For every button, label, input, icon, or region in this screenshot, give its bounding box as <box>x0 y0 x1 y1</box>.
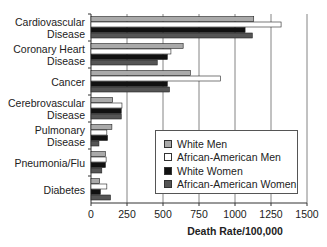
bar-african-american-men <box>91 76 221 81</box>
bar-african-american-men <box>91 103 122 108</box>
bar-white-women <box>91 163 105 168</box>
category-label: CardiovascularDisease <box>15 16 85 40</box>
bar-white-women <box>91 28 245 33</box>
x-tick-label: 1000 <box>223 208 246 220</box>
bar-white-women <box>91 82 167 87</box>
bar-white-men <box>91 17 254 22</box>
bar-african-american-men <box>91 22 281 27</box>
bar-african-american-men <box>91 157 106 162</box>
bar-african-american-women <box>91 87 169 92</box>
legend-label: African-American Men <box>177 151 281 163</box>
x-tick-label: 1500 <box>295 208 318 220</box>
legend-label: White Women <box>177 165 243 177</box>
category-label: Cancer <box>51 76 85 88</box>
legend-item: White Women <box>164 164 297 178</box>
legend: White MenAfrican-American MenWhite Women… <box>155 130 298 194</box>
bar-white-men <box>91 152 105 157</box>
bar-white-men <box>91 98 113 103</box>
x-tick-label: 500 <box>154 208 172 220</box>
category-label: Coronary HeartDisease <box>13 43 85 67</box>
category-label: CerebrovascularDisease <box>8 97 85 121</box>
x-tick-label: 0 <box>88 208 94 220</box>
legend-item: White Men <box>164 137 297 151</box>
legend-label: African-American Women <box>177 178 296 190</box>
legend-label: White Men <box>177 138 227 150</box>
bar-african-american-women <box>91 195 110 200</box>
x-tick-label: 1250 <box>259 208 282 220</box>
category-label: PulmonaryDisease <box>35 124 85 148</box>
x-axis-label: Death Rate/100,000 <box>0 225 327 237</box>
bar-chart: CardiovascularDiseaseCoronary HeartDisea… <box>0 0 327 247</box>
legend-item: African-American Women <box>164 178 297 192</box>
legend-swatch <box>164 140 172 148</box>
bar-african-american-women <box>91 33 252 38</box>
category-label: Pneumonia/Flu <box>14 157 85 169</box>
bar-white-men <box>91 125 112 130</box>
x-axis-title: Death Rate/100,000 <box>187 225 283 237</box>
legend-swatch <box>164 167 172 175</box>
bar-african-american-men <box>91 184 107 189</box>
x-tick-label: 250 <box>118 208 136 220</box>
bar-african-american-men <box>91 130 107 135</box>
bar-african-american-women <box>91 168 102 173</box>
legend-item: African-American Men <box>164 151 297 165</box>
bar-white-women <box>91 136 108 141</box>
bar-african-american-men <box>91 49 171 54</box>
bar-white-men <box>91 179 100 184</box>
bar-white-women <box>91 109 121 114</box>
bar-white-women <box>91 190 100 195</box>
legend-swatch <box>164 153 172 161</box>
bar-white-men <box>91 71 190 76</box>
x-tick-label: 750 <box>190 208 208 220</box>
bar-african-american-women <box>91 114 121 119</box>
bar-white-women <box>91 55 167 60</box>
bar-african-american-women <box>91 60 157 65</box>
bar-white-men <box>91 44 183 49</box>
category-label: Diabetes <box>44 184 85 196</box>
bar-african-american-women <box>91 141 99 146</box>
legend-swatch <box>164 180 172 188</box>
